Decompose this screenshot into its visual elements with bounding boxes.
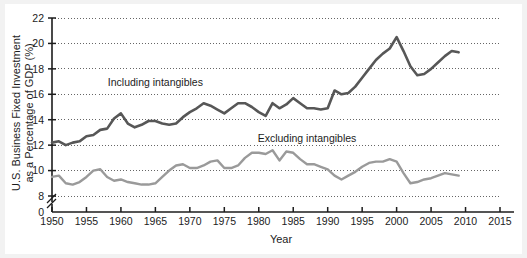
data-series-group	[52, 37, 459, 184]
chart-figure: 0810121416182022 19501955196019651970197…	[0, 0, 527, 258]
x-tick-label: 1980	[247, 215, 271, 227]
x-tick-label: 2010	[454, 215, 478, 227]
x-tick-label: 2005	[419, 215, 443, 227]
x-tick-label: 1960	[109, 215, 133, 227]
series-line-including-intangibles	[52, 37, 459, 145]
x-axis-title: Year	[270, 233, 293, 245]
y-axis-title-line1: U.S. Business Fixed Investment	[10, 35, 22, 191]
x-tick-label: 1970	[178, 215, 202, 227]
series-line-excluding-intangibles	[52, 150, 459, 184]
x-tick-label: 1995	[350, 215, 374, 227]
x-tick-label: 1965	[144, 215, 168, 227]
x-tick-label: 1955	[75, 215, 99, 227]
x-tick-label: 1985	[282, 215, 306, 227]
x-tick-label: 1990	[316, 215, 340, 227]
x-tick-label: 1950	[40, 215, 64, 227]
x-tick-label: 1975	[213, 215, 237, 227]
series-label-including-intangibles: Including intangibles	[108, 76, 203, 88]
y-tick-label: 8	[38, 190, 44, 202]
x-tick-label: 2015	[488, 215, 512, 227]
x-axis-ticks: 1950195519601965197019751980198519901995…	[40, 207, 512, 227]
chart-canvas: 0810121416182022 19501955196019651970197…	[0, 0, 527, 258]
y-tick-label: 22	[32, 12, 44, 24]
series-label-excluding-intangibles: Excluding intangibles	[258, 132, 357, 144]
x-tick-label: 2000	[385, 215, 409, 227]
y-axis-title-line2: as a Percentage of GDP (%)	[23, 43, 35, 182]
